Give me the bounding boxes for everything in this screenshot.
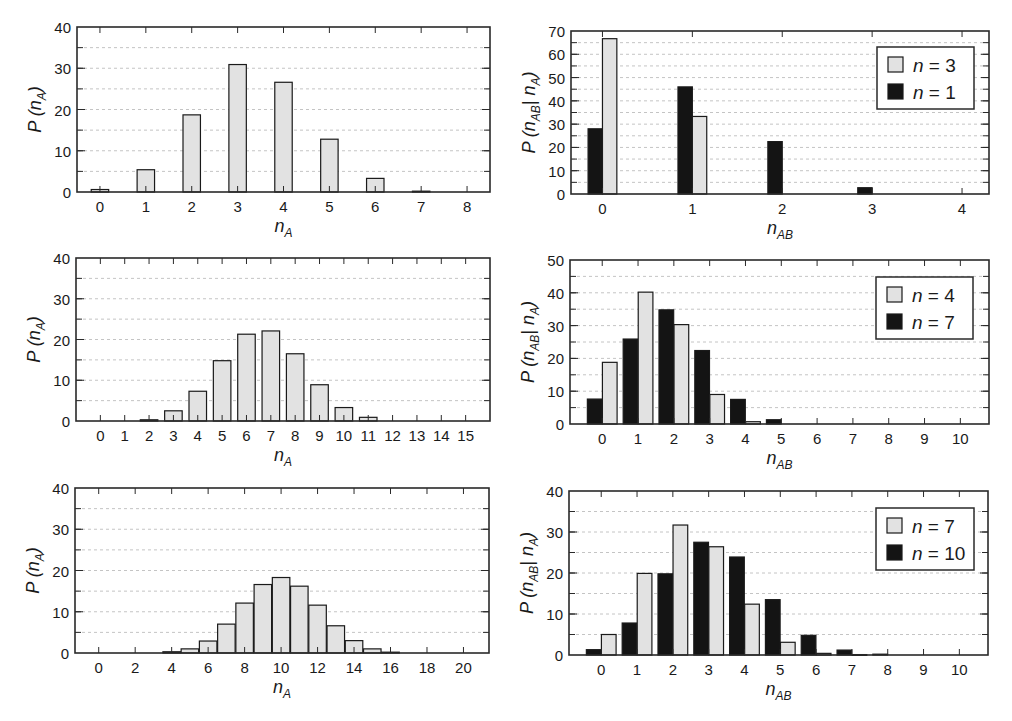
x-axis-label: nAB <box>766 448 792 472</box>
bar <box>238 334 256 421</box>
bar <box>730 557 745 655</box>
bar <box>694 542 709 655</box>
y-tick-label: 70 <box>548 23 565 40</box>
bar <box>262 331 280 421</box>
y-axis: 010203040P (nA) <box>25 19 490 201</box>
x-tick-label: 10 <box>336 427 353 444</box>
x-axis: 0123456789101112131415nA <box>96 258 474 469</box>
bar <box>692 116 706 194</box>
x-tick-label: 12 <box>384 427 401 444</box>
y-tick-label: 30 <box>54 60 71 77</box>
x-tick-label: 2 <box>145 427 153 444</box>
bar <box>213 361 231 421</box>
x-tick-label: 2 <box>188 198 196 215</box>
x-tick-label: 4 <box>741 430 749 447</box>
bars <box>140 331 377 421</box>
y-tick-label: 60 <box>548 46 565 63</box>
y-tick-label: 0 <box>556 416 564 433</box>
legend: n = 4n = 7 <box>876 277 973 339</box>
x-axis-label: nA <box>273 677 291 701</box>
bar <box>236 603 254 653</box>
chart-panel-p2: 01234nAB010203040506070P (nAB| nA)n = 3n… <box>519 23 989 242</box>
x-tick-label: 2 <box>670 430 678 447</box>
bar <box>218 624 236 653</box>
legend-swatch <box>887 287 902 302</box>
legend-swatch <box>887 314 902 329</box>
bar <box>659 310 674 424</box>
bar <box>745 604 760 655</box>
bar <box>731 399 746 424</box>
legend-entry-label: n = 10 <box>912 543 965 564</box>
y-axis-label: P (nAB| nA) <box>518 301 542 383</box>
x-tick-label: 8 <box>884 661 892 678</box>
bar <box>254 585 272 653</box>
y-tick-label: 20 <box>547 350 564 367</box>
x-tick-label: 0 <box>96 198 104 215</box>
y-tick-label: 0 <box>61 645 69 662</box>
x-tick-label: 7 <box>267 427 275 444</box>
chart-panel-p3: 0123456789101112131415nA010203040P (nA) <box>24 250 490 469</box>
y-tick-label: 20 <box>548 139 565 156</box>
y-tick-label: 20 <box>53 332 70 349</box>
x-tick-label: 12 <box>309 659 326 676</box>
x-tick-label: 4 <box>279 198 287 215</box>
x-tick-label: 5 <box>218 427 226 444</box>
x-axis-label: nAB <box>765 679 791 703</box>
legend-swatch <box>887 545 902 560</box>
legend-entry-label: n = 7 <box>912 312 955 333</box>
bar <box>768 142 782 194</box>
x-tick-label: 18 <box>419 659 436 676</box>
y-tick-label: 10 <box>548 163 565 180</box>
bar <box>858 188 872 194</box>
legend-entry-label: n = 3 <box>913 55 956 76</box>
bar <box>658 574 673 655</box>
x-tick-label: 15 <box>457 427 474 444</box>
x-tick-label: 5 <box>776 661 784 678</box>
legend-swatch <box>887 518 902 533</box>
bar <box>587 399 602 424</box>
bar <box>286 354 304 421</box>
x-tick-label: 5 <box>777 430 785 447</box>
y-axis-label: P (nA) <box>25 86 49 132</box>
y-axis-label: P (nA) <box>23 547 47 593</box>
x-tick-label: 13 <box>409 427 426 444</box>
bar <box>695 351 710 424</box>
y-tick-label: 20 <box>52 563 69 580</box>
bar <box>588 129 602 194</box>
x-tick-label: 8 <box>291 427 299 444</box>
x-axis-label: nAB <box>767 218 793 242</box>
x-axis-label: nA <box>274 445 292 469</box>
x-tick-label: 20 <box>455 659 472 676</box>
y-tick-label: 50 <box>547 252 564 269</box>
x-tick-label: 1 <box>688 200 696 217</box>
bar <box>327 626 345 653</box>
bar <box>275 82 292 192</box>
x-tick-label: 4 <box>194 427 202 444</box>
y-tick-label: 10 <box>546 606 563 623</box>
x-tick-label: 4 <box>740 661 748 678</box>
bar <box>623 339 638 424</box>
x-tick-label: 6 <box>813 430 821 447</box>
y-tick-label: 30 <box>547 318 564 335</box>
y-axis: 010203040P (nA) <box>24 250 490 430</box>
x-tick-label: 8 <box>885 430 893 447</box>
x-tick-label: 16 <box>382 659 399 676</box>
y-tick-label: 40 <box>547 285 564 302</box>
x-tick-label: 8 <box>240 659 248 676</box>
x-tick-label: 10 <box>273 659 290 676</box>
y-tick-label: 30 <box>52 521 69 538</box>
y-tick-label: 40 <box>54 19 71 36</box>
y-tick-label: 30 <box>548 116 565 133</box>
x-tick-label: 3 <box>868 200 876 217</box>
x-tick-label: 0 <box>597 661 605 678</box>
x-tick-label: 2 <box>131 659 139 676</box>
y-axis-label: P (nAB| nA) <box>519 71 543 153</box>
legend-entry-label: n = 1 <box>913 82 956 103</box>
y-tick-label: 10 <box>53 372 70 389</box>
x-axis-label: nA <box>274 216 292 240</box>
x-tick-label: 2 <box>669 661 677 678</box>
chart-panel-p6: 012345678910nAB010203040P (nAB| nA)n = 7… <box>517 483 988 703</box>
legend-entry-label: n = 7 <box>912 516 955 537</box>
y-tick-label: 0 <box>63 184 71 201</box>
x-tick-label: 0 <box>598 200 606 217</box>
